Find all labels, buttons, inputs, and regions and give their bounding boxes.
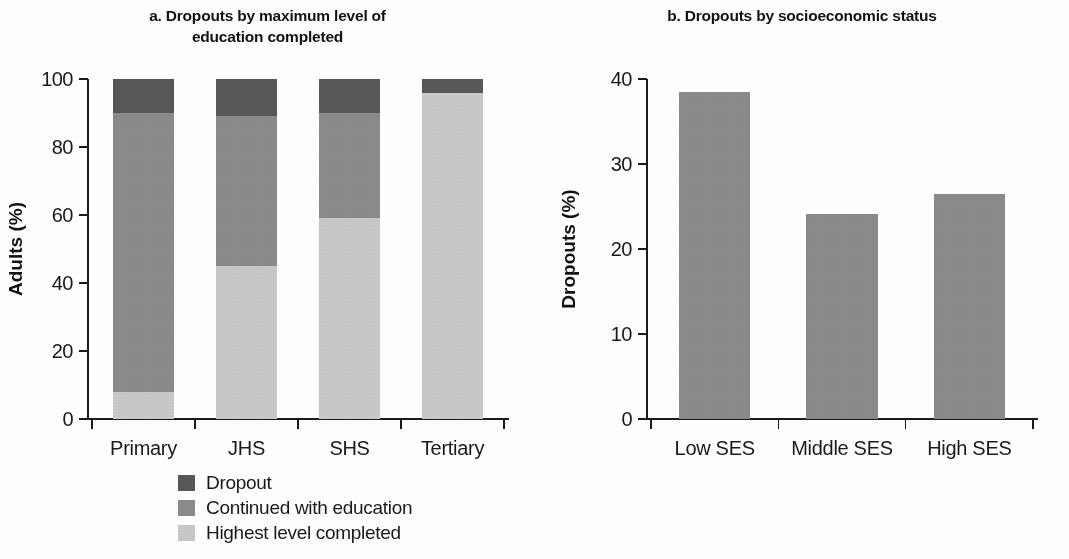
- panel-a-y-axis-title: Adults (%): [5, 202, 27, 296]
- bar-texture: [178, 525, 195, 541]
- legend-swatch-icon: [178, 525, 195, 541]
- bar-segment: [319, 79, 381, 113]
- stacked-bar: [422, 79, 484, 419]
- x-category-label: High SES: [927, 437, 1011, 460]
- y-tick: 40: [79, 282, 88, 284]
- legend-label: Highest level completed: [206, 522, 401, 544]
- bar-texture: [319, 79, 381, 113]
- y-tick: 20: [638, 248, 647, 250]
- x-category-label: Low SES: [675, 437, 755, 460]
- y-tick-label: 100: [41, 68, 73, 91]
- x-tick: [91, 419, 93, 429]
- panel-a-y-axis: [87, 79, 89, 419]
- y-tick: 0: [79, 418, 88, 420]
- bar-texture: [319, 218, 381, 419]
- x-tick: [905, 419, 907, 429]
- x-category-label: Tertiary: [421, 437, 484, 460]
- x-category-label: JHS: [228, 437, 265, 460]
- panel-a-plot-area: Adults (%) 020406080100 PrimaryJHSSHSTer…: [88, 79, 508, 419]
- legend-label: Continued with education: [206, 497, 412, 519]
- bar-texture: [178, 475, 195, 491]
- y-tick-label: 0: [621, 407, 632, 430]
- bar-texture: [934, 194, 1005, 419]
- bar-segment: [319, 218, 381, 419]
- x-tick: [297, 419, 299, 429]
- panel-a-title-line2: education completed: [0, 27, 535, 48]
- panel-b-plot-area: Dropouts (%) 010203040 Low SESMiddle SES…: [647, 79, 1037, 419]
- y-tick: 20: [79, 350, 88, 352]
- bar-texture: [422, 79, 484, 93]
- bar-segment: [216, 116, 278, 266]
- bar: [934, 194, 1005, 419]
- x-tick: [503, 419, 505, 429]
- bar-segment: [422, 93, 484, 419]
- bar-segment: [422, 79, 484, 93]
- legend-swatch-icon: [178, 475, 195, 491]
- figure-canvas: a. Dropouts by maximum level of educatio…: [0, 0, 1069, 559]
- y-tick: 40: [638, 78, 647, 80]
- panel-b-y-axis-title: Dropouts (%): [558, 189, 580, 308]
- y-tick-label: 0: [62, 407, 73, 430]
- x-tick: [400, 419, 402, 429]
- bar-texture: [216, 79, 278, 116]
- bar-texture: [113, 113, 175, 392]
- bar-texture: [216, 266, 278, 419]
- y-tick: 80: [79, 146, 88, 148]
- bar-texture: [113, 79, 175, 113]
- bar-segment: [216, 266, 278, 419]
- panel-b-title: b. Dropouts by socioeconomic status: [535, 6, 1069, 27]
- x-category-label: Primary: [110, 437, 177, 460]
- x-tick: [778, 419, 780, 429]
- y-tick-label: 10: [611, 322, 632, 345]
- legend: DropoutContinued with educationHighest l…: [178, 470, 412, 545]
- panel-a-dropouts-by-education: a. Dropouts by maximum level of educatio…: [0, 0, 535, 559]
- y-tick: 60: [79, 214, 88, 216]
- legend-swatch-icon: [178, 500, 195, 516]
- x-tick: [194, 419, 196, 429]
- x-category-label: SHS: [329, 437, 369, 460]
- y-tick-label: 40: [52, 271, 73, 294]
- y-tick-label: 40: [611, 68, 632, 91]
- bar-texture: [679, 92, 750, 419]
- panel-a-title: a. Dropouts by maximum level of educatio…: [0, 6, 535, 48]
- y-tick: 0: [638, 418, 647, 420]
- y-tick: 10: [638, 333, 647, 335]
- bar: [806, 214, 877, 419]
- bar-texture: [422, 93, 484, 419]
- bar-texture: [806, 214, 877, 419]
- bar-segment: [113, 113, 175, 392]
- legend-item: Continued with education: [178, 495, 412, 520]
- y-tick-label: 30: [611, 152, 632, 175]
- y-tick-label: 20: [52, 339, 73, 362]
- legend-label: Dropout: [206, 472, 272, 494]
- bar-texture: [319, 113, 381, 218]
- panel-b-dropouts-by-ses: b. Dropouts by socioeconomic status Drop…: [535, 0, 1069, 559]
- bar: [679, 92, 750, 419]
- bar-segment: [113, 392, 175, 419]
- bar-segment: [319, 113, 381, 218]
- stacked-bar: [113, 79, 175, 419]
- bar-texture: [216, 116, 278, 266]
- y-tick-label: 80: [52, 135, 73, 158]
- bar-texture: [113, 392, 175, 419]
- x-tick: [1032, 419, 1034, 429]
- y-tick: 30: [638, 163, 647, 165]
- y-tick-label: 20: [611, 237, 632, 260]
- bar-texture: [178, 500, 195, 516]
- legend-item: Highest level completed: [178, 520, 412, 545]
- stacked-bar: [216, 79, 278, 419]
- panel-a-title-line1: a. Dropouts by maximum level of: [0, 6, 535, 27]
- x-tick: [650, 419, 652, 429]
- bar-segment: [113, 79, 175, 113]
- x-category-label: Middle SES: [791, 437, 893, 460]
- y-tick-label: 60: [52, 203, 73, 226]
- legend-item: Dropout: [178, 470, 412, 495]
- y-tick: 100: [79, 78, 88, 80]
- bar-segment: [216, 79, 278, 116]
- stacked-bar: [319, 79, 381, 419]
